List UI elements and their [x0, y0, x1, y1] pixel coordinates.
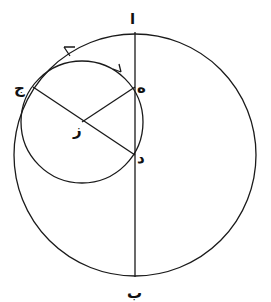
label-ha: ه	[137, 79, 146, 97]
label-ba: ب	[127, 284, 142, 302]
segment-zay-ha	[82, 87, 135, 122]
label-alif: ا	[130, 10, 135, 28]
label-dal: د	[137, 149, 145, 167]
label-jim: ج	[14, 79, 25, 97]
label-zay: ز	[72, 121, 82, 139]
geometry-diagram: ا ب ج ه د ز	[0, 0, 271, 302]
